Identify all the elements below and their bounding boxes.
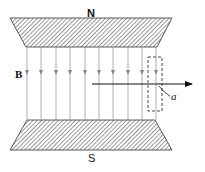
field-arrow-icon <box>140 70 144 75</box>
field-b-label: B <box>15 69 22 80</box>
field-arrow-icon <box>154 70 158 75</box>
leader-line <box>159 86 170 96</box>
field-arrow-icon <box>68 70 72 75</box>
south-label: S <box>88 153 95 164</box>
field-arrow-icon <box>97 70 101 75</box>
field-arrow-icon <box>126 70 130 75</box>
diagram-graphics <box>0 0 205 172</box>
south-pole <box>10 120 172 150</box>
field-arrow-icon <box>54 70 58 75</box>
field-arrow-icon <box>83 70 87 75</box>
north-label: N <box>87 8 95 19</box>
region-a-label: a <box>171 91 177 102</box>
magnetic-field-diagram: N S B a <box>0 0 205 172</box>
field-arrow-icon <box>25 70 29 75</box>
field-arrow-icon <box>39 70 43 75</box>
field-arrow-icon <box>111 70 115 75</box>
north-pole <box>10 18 172 47</box>
